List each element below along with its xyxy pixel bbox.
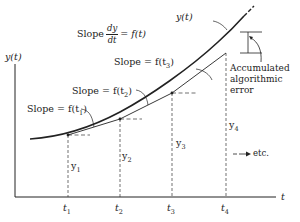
dy-dt-fraction: dydt bbox=[106, 24, 118, 44]
slope-definition-label: Slopedydt= f(t) bbox=[77, 24, 146, 44]
tick-t3: t3 bbox=[167, 203, 175, 215]
euler-method-diagram: { "axes": { "y_label": "y(t)", "x_label"… bbox=[0, 0, 300, 222]
etc-arrowhead-icon bbox=[246, 152, 251, 157]
y2-label: y2 bbox=[122, 151, 132, 163]
t-axis-label: t bbox=[281, 192, 285, 202]
tick-t4: t4 bbox=[221, 203, 229, 215]
y3-label: y3 bbox=[176, 138, 186, 150]
y1-label: y1 bbox=[71, 161, 81, 173]
y4-label: y4 bbox=[229, 120, 239, 132]
slope-t3-label: Slope = f(t3) bbox=[114, 57, 174, 69]
tick-t2: t2 bbox=[115, 203, 123, 215]
etc-label: etc. bbox=[253, 149, 269, 158]
slope-t1-label: Slope = f(t1) bbox=[27, 104, 87, 116]
error-arrowhead bbox=[249, 36, 253, 40]
curve-dashed-extension bbox=[244, 6, 254, 16]
slope-t2-label: Slope = f(t2) bbox=[72, 86, 132, 98]
tick-t1: t1 bbox=[63, 203, 71, 215]
curve-y-label: y(t) bbox=[176, 12, 193, 22]
y-axis-label: y(t) bbox=[5, 52, 22, 62]
accumulated-error-note: Accumulated algorithmic error bbox=[230, 63, 290, 96]
